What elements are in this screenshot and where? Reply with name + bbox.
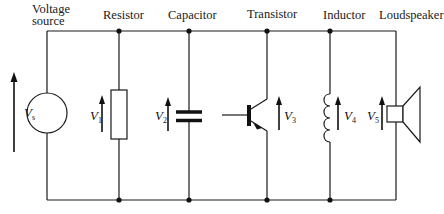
v4-arrow-icon <box>335 96 341 130</box>
loudspeaker-label: Loudspeaker <box>379 9 444 21</box>
voltage-source-label-line2: source <box>32 15 70 27</box>
v5-arrow-icon <box>379 96 385 130</box>
v3-subscript: 3 <box>292 116 296 125</box>
voltage-label-vs: Vs <box>24 105 35 122</box>
v4-subscript: 4 <box>352 116 356 125</box>
voltage-label-v4: V4 <box>344 108 356 125</box>
v5-symbol: V <box>367 108 375 123</box>
loudspeaker-icon <box>387 87 420 142</box>
voltage-label-v3: V3 <box>284 108 296 125</box>
voltage-source-label: Voltage source <box>32 3 70 27</box>
vs-arrow-icon <box>11 72 18 152</box>
transistor-branch <box>222 31 282 200</box>
capacitor-label: Capacitor <box>168 9 217 21</box>
capacitor-icon <box>176 112 202 121</box>
voltage-label-v1: V1 <box>90 108 102 125</box>
vs-subscript: s <box>32 113 35 122</box>
v3-symbol: V <box>284 108 292 123</box>
voltage-label-v2: V2 <box>155 108 167 125</box>
circuit-canvas <box>0 0 444 214</box>
inductor-icon <box>324 94 330 142</box>
v2-symbol: V <box>155 108 163 123</box>
voltage-label-v5: V5 <box>367 108 379 125</box>
circuit-diagram: Voltage source Resistor Capacitor Transi… <box>0 0 444 214</box>
inductor-branch <box>324 31 341 200</box>
v1-symbol: V <box>90 108 98 123</box>
v5-subscript: 5 <box>375 116 379 125</box>
resistor-icon <box>111 90 127 139</box>
resistor-label: Resistor <box>103 9 144 21</box>
transistor-label: Transistor <box>247 8 297 20</box>
voltage-source-branch <box>11 31 68 200</box>
v2-subscript: 2 <box>163 116 167 125</box>
vs-symbol: V <box>24 105 32 120</box>
resistor-branch <box>99 31 127 200</box>
transistor-icon <box>222 99 267 131</box>
v1-subscript: 1 <box>98 116 102 125</box>
loudspeaker-branch <box>379 31 420 200</box>
v4-symbol: V <box>344 108 352 123</box>
capacitor-branch <box>165 31 202 200</box>
inductor-label: Inductor <box>323 9 365 21</box>
v3-arrow-icon <box>276 96 282 130</box>
